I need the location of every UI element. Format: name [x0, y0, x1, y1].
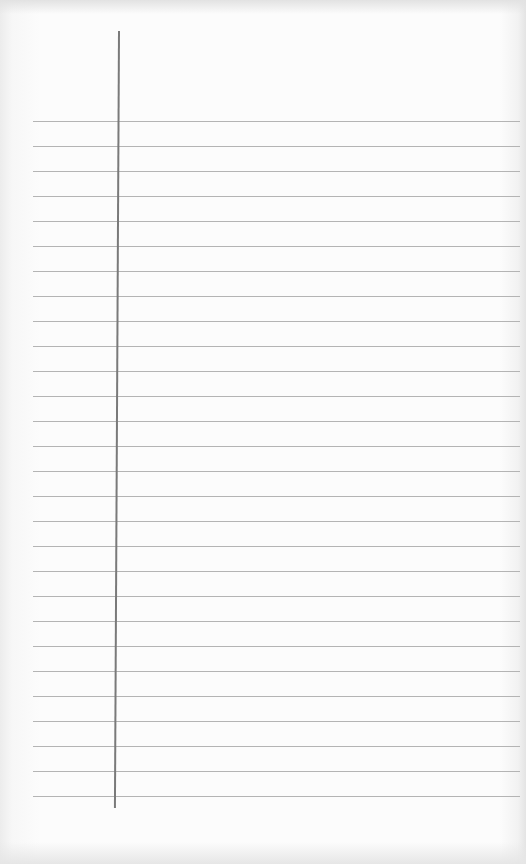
ruled-line — [33, 621, 520, 622]
ruled-line — [33, 296, 520, 297]
notebook-paper — [0, 0, 526, 864]
ruled-line — [33, 796, 520, 797]
ruled-line — [33, 446, 520, 447]
top-edge-shadow — [0, 0, 526, 14]
ruled-line — [33, 696, 520, 697]
ruled-line — [33, 646, 520, 647]
ruled-line — [33, 121, 520, 122]
ruled-line — [33, 596, 520, 597]
margin-line — [114, 31, 120, 808]
ruled-line — [33, 721, 520, 722]
ruled-line — [33, 271, 520, 272]
ruled-line — [33, 671, 520, 672]
ruled-line — [33, 346, 520, 347]
ruled-line — [33, 196, 520, 197]
ruled-line — [33, 146, 520, 147]
bottom-edge-shadow — [0, 842, 526, 864]
ruled-line — [33, 771, 520, 772]
ruled-line — [33, 571, 520, 572]
ruled-line — [33, 396, 520, 397]
ruled-line — [33, 221, 520, 222]
ruled-line — [33, 496, 520, 497]
ruled-line — [33, 371, 520, 372]
ruled-line — [33, 421, 520, 422]
ruled-line — [33, 521, 520, 522]
ruled-line — [33, 321, 520, 322]
ruled-line — [33, 246, 520, 247]
ruled-line — [33, 546, 520, 547]
ruled-line — [33, 746, 520, 747]
ruled-line — [33, 471, 520, 472]
ruled-line — [33, 171, 520, 172]
